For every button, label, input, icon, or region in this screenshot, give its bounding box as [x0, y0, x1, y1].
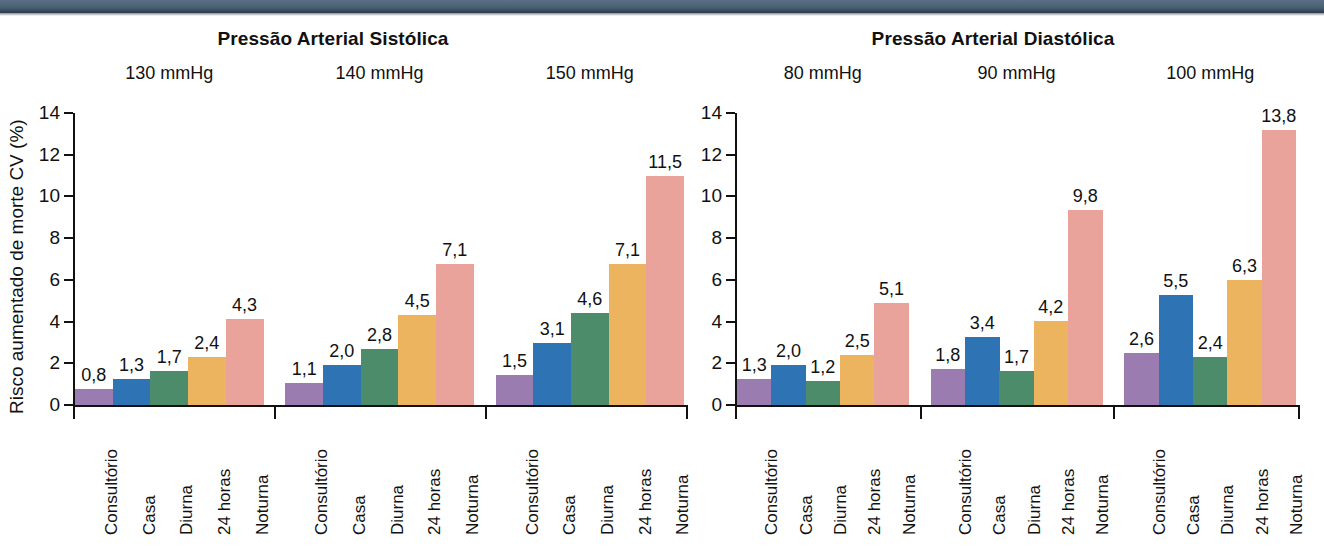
x-category-label: Casa [797, 495, 817, 535]
chart-panel-diastolic: Pressão Arterial Diastólica 80 mmHg90 mm… [662, 0, 1324, 557]
y-tick-label: 12 [680, 144, 722, 166]
figure-page: Pressão Arterial Sistólica 130 mmHg140 m… [0, 0, 1324, 557]
x-category-label: Noturna [463, 475, 483, 535]
y-tick-mark [726, 321, 735, 323]
bar [188, 357, 226, 405]
bar [931, 369, 966, 405]
bar-value-label: 1,7 [1004, 347, 1029, 368]
x-category-label: 24 horas [215, 469, 235, 535]
y-tick-mark [64, 112, 73, 114]
y-tick-mark [64, 362, 73, 364]
y-axis-line [735, 113, 737, 407]
bar-value-label: 4,5 [405, 291, 430, 312]
bar-value-label: 1,2 [810, 357, 835, 378]
y-tick-mark [64, 195, 73, 197]
x-category-label: Consultório [762, 449, 782, 535]
bar-value-label: 13,8 [1261, 106, 1296, 127]
x-category-label: Casa [1184, 495, 1204, 535]
bar [113, 379, 151, 405]
x-group-separator-tick [485, 407, 487, 419]
x-category-label: 24 horas [425, 469, 445, 535]
bar [150, 371, 188, 405]
x-category-label: Consultório [956, 449, 976, 535]
y-tick-mark [726, 237, 735, 239]
bar-value-label: 4,3 [232, 295, 257, 316]
bar-value-label: 1,5 [502, 351, 527, 372]
plot-area-diastolic: 024681012141,3Consultório2,0Casa1,2Diurn… [662, 0, 1324, 557]
bar-value-label: 3,1 [540, 319, 565, 340]
bar-value-label: 2,6 [1129, 329, 1154, 350]
bar-value-label: 5,1 [879, 279, 904, 300]
bar-value-label: 0,8 [81, 365, 106, 386]
bar [965, 337, 1000, 405]
bar [1193, 357, 1228, 405]
bar [1227, 280, 1262, 405]
x-axis-line [735, 405, 1300, 407]
bar [533, 343, 571, 405]
y-tick-label: 0 [680, 394, 722, 416]
bar [1262, 130, 1297, 405]
x-category-label: Noturna [253, 475, 273, 535]
y-tick-mark [64, 279, 73, 281]
bar-value-label: 7,1 [442, 240, 467, 261]
bar [840, 355, 875, 405]
x-axis-end-tick [735, 407, 737, 419]
x-category-label: Casa [990, 495, 1010, 535]
bar-value-label: 3,4 [970, 313, 995, 334]
bar-value-label: 5,5 [1163, 271, 1188, 292]
y-tick-mark [726, 112, 735, 114]
x-category-label: Consultório [1150, 449, 1170, 535]
y-tick-mark [64, 237, 73, 239]
bar [737, 379, 772, 405]
x-group-separator-tick [1113, 407, 1115, 419]
x-group-separator-tick [920, 407, 922, 419]
y-tick-mark [726, 404, 735, 406]
y-tick-label: 14 [680, 102, 722, 124]
x-category-label: Diurna [177, 485, 197, 535]
bar [75, 389, 113, 405]
bar [323, 365, 361, 405]
y-tick-label: 8 [680, 227, 722, 249]
bar-value-label: 1,7 [157, 347, 182, 368]
bar [1159, 295, 1194, 405]
x-axis-line [73, 405, 688, 407]
y-axis-title: Risco aumentado de morte CV (%) [6, 119, 28, 414]
bar-value-label: 7,1 [615, 240, 640, 261]
x-category-label: Diurna [831, 485, 851, 535]
bar-value-label: 4,2 [1038, 297, 1063, 318]
x-category-label: 24 horas [1253, 469, 1273, 535]
y-tick-mark [726, 195, 735, 197]
bar-value-label: 2,0 [329, 341, 354, 362]
x-category-label: Consultório [312, 449, 332, 535]
bar [609, 264, 647, 405]
x-category-label: 24 horas [865, 469, 885, 535]
x-category-label: Diurna [1025, 485, 1045, 535]
bar [226, 319, 264, 405]
bar [999, 371, 1034, 405]
x-category-label: Diurna [598, 485, 618, 535]
x-category-label: Diurna [388, 485, 408, 535]
y-tick-mark [726, 362, 735, 364]
bar-value-label: 2,0 [776, 341, 801, 362]
x-category-label: 24 horas [636, 469, 656, 535]
bar [771, 365, 806, 405]
bar-value-label: 2,4 [1198, 333, 1223, 354]
bar [285, 383, 323, 405]
x-category-label: Casa [350, 495, 370, 535]
x-category-label: 24 horas [1059, 469, 1079, 535]
bar-value-label: 1,3 [742, 355, 767, 376]
bar-value-label: 9,8 [1073, 186, 1098, 207]
y-tick-mark [64, 154, 73, 156]
y-tick-mark [726, 154, 735, 156]
bar-value-label: 4,6 [577, 289, 602, 310]
y-tick-label: 2 [680, 352, 722, 374]
bar-value-label: 2,8 [367, 325, 392, 346]
bar [874, 303, 909, 405]
x-category-label: Noturna [900, 475, 920, 535]
plot-area-systolic: 02468101214Risco aumentado de morte CV (… [0, 0, 690, 557]
y-tick-mark [726, 279, 735, 281]
bar [1068, 210, 1103, 405]
x-category-label: Casa [140, 495, 160, 535]
bar [571, 313, 609, 405]
x-category-label: Casa [560, 495, 580, 535]
